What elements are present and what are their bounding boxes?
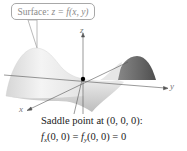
- callout-equation: z = f(x, y): [52, 7, 89, 17]
- surface-callout: Surface: z = f(x, y): [11, 3, 95, 20]
- x-axis-label: x: [19, 104, 23, 114]
- saddle-point-marker: [81, 77, 85, 81]
- surface-left-hump: [6, 48, 84, 99]
- saddle-point-label: Saddle point at (0, 0, 0):: [41, 115, 143, 126]
- callout-prefix: Surface:: [17, 7, 51, 17]
- y-axis-label: y: [170, 81, 174, 91]
- saddle-surface-figure: [0, 0, 187, 151]
- z-axis-label: z: [80, 25, 84, 35]
- callout-pointer: [28, 20, 37, 48]
- fy-args: (0, 0) = 0: [87, 131, 126, 142]
- fx-args: (0, 0) =: [47, 131, 81, 142]
- partial-derivatives-equation: fx(0, 0) = fy(0, 0) = 0: [41, 131, 126, 144]
- surface-right-hump: [116, 56, 156, 80]
